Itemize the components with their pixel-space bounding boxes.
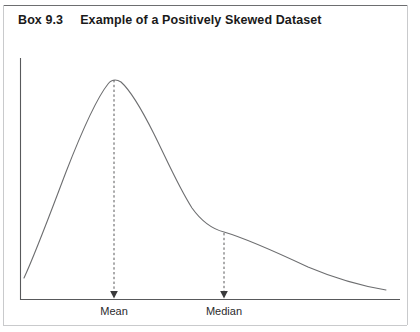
mean-arrowhead-icon [110, 291, 118, 299]
mean-annotation: Mean [100, 80, 128, 317]
figure-container: Box 9.3 Example of a Positively Skewed D… [0, 0, 420, 332]
median-arrowhead-icon [220, 291, 228, 299]
distribution-curve [24, 80, 386, 290]
skewed-distribution-chart: Mean Median [0, 0, 420, 332]
median-annotation: Median [206, 233, 242, 317]
mean-label: Mean [100, 305, 128, 317]
median-label: Median [206, 305, 242, 317]
